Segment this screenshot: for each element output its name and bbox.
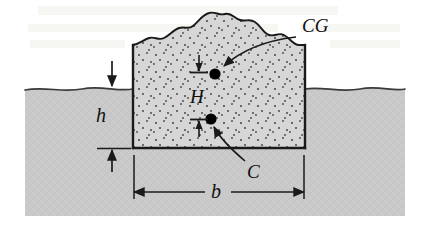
c-label: C: [247, 161, 260, 182]
buoyancy-stability-figure: CG C H h b: [0, 0, 424, 226]
cg-label: CG: [302, 15, 329, 36]
figure-canvas: CG C H h b: [0, 0, 424, 226]
draft-label: h: [96, 104, 106, 126]
beam-label: b: [211, 180, 221, 202]
barge-hull-with-cargo: [133, 13, 305, 148]
center-of-gravity-point: [209, 68, 220, 79]
h-label: H: [189, 86, 205, 107]
